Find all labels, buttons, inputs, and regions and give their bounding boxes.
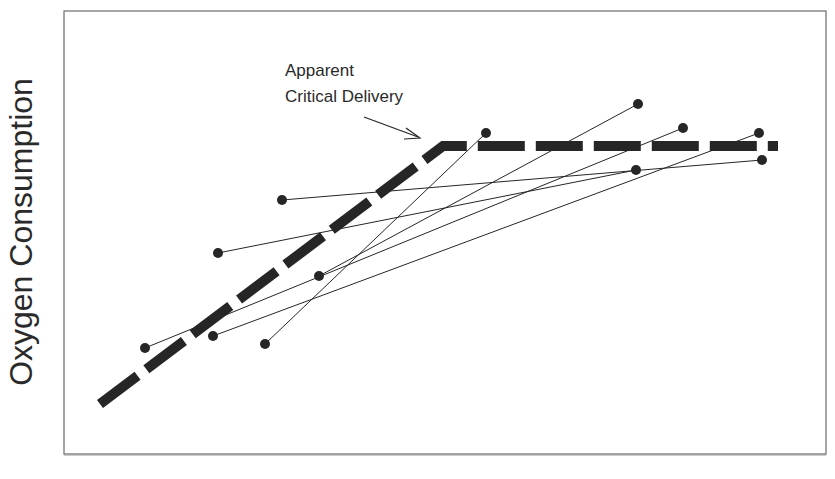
critical-delivery-curve [100,146,778,404]
series-line [265,133,486,344]
data-point [754,128,764,138]
data-point [633,99,643,109]
data-point [631,165,641,175]
data-point [277,195,287,205]
chart: Oxygen Consumption Apparent Critical Del… [0,0,835,479]
series-line [319,104,638,276]
data-point [481,128,491,138]
data-points [140,99,767,353]
annotation-line-2: Critical Delivery [285,87,404,106]
annotation-arrow-icon [364,117,420,139]
data-point [140,343,150,353]
data-point [314,271,324,281]
data-point [757,155,767,165]
plot-frame [64,11,826,454]
data-point [678,123,688,133]
data-point [260,339,270,349]
annotation-line-1: Apparent [285,61,354,80]
data-point [208,331,218,341]
series-line [213,133,759,336]
dashed-reference-line [100,146,778,404]
series-line [218,170,636,253]
series-lines [145,104,762,348]
data-point [213,248,223,258]
y-axis-label: Oxygen Consumption [3,78,39,386]
